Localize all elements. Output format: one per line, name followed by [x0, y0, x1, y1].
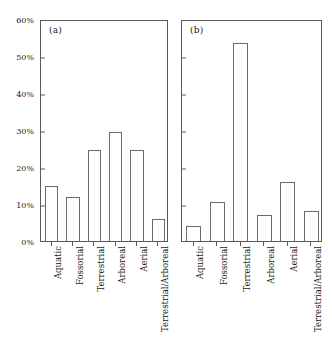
y-tick-mark	[41, 132, 45, 133]
y-tick-mark	[182, 206, 186, 207]
y-tick-mark	[182, 95, 186, 96]
figure-canvas: 0%10%20%30%40%50%60% (a) (b) AquaticFoss…	[0, 0, 332, 351]
panel-a: (a)	[40, 20, 168, 242]
bar	[280, 182, 295, 241]
y-tick-label: 10%	[16, 201, 34, 210]
x-tick-label: Fossorial	[76, 246, 85, 285]
bar	[257, 215, 272, 241]
y-tick-label: 20%	[16, 164, 34, 173]
y-tick-label: 60%	[16, 16, 34, 25]
y-tick-mark	[182, 169, 186, 170]
y-tick-mark	[41, 58, 45, 59]
y-tick-mark	[182, 58, 186, 59]
bar	[233, 43, 248, 241]
bar	[152, 219, 165, 241]
x-tick-label: Aquatic	[196, 246, 205, 279]
x-tick-label: Arboreal	[267, 246, 276, 284]
y-tick-mark	[41, 169, 45, 170]
x-tick-label: Terrestrial/Arboreal	[161, 246, 170, 332]
bar	[109, 132, 122, 241]
x-tick-label: Arboreal	[118, 246, 127, 284]
x-tick-label: Terrestrial/Arboreal	[314, 246, 323, 332]
bar	[88, 150, 101, 241]
panel-a-bars	[41, 21, 167, 241]
x-tick-label: Aerial	[290, 246, 299, 272]
panel-b-bars	[182, 21, 321, 241]
bar	[210, 202, 225, 241]
bar	[66, 197, 79, 241]
x-tick-label: Terrestrial	[97, 246, 106, 292]
x-tick-label: Aquatic	[54, 246, 63, 279]
bar	[45, 186, 58, 242]
y-tick-mark	[182, 132, 186, 133]
bar	[304, 211, 319, 241]
y-tick-label: 50%	[16, 53, 34, 62]
y-tick-mark	[41, 206, 45, 207]
y-tick-label: 30%	[16, 127, 34, 136]
x-axis-labels: AquaticFossorialTerrestrialArborealAeria…	[0, 246, 332, 351]
y-tick-label: 40%	[16, 90, 34, 99]
bar	[130, 150, 143, 241]
x-tick-label: Fossorial	[220, 246, 229, 285]
bar	[186, 226, 201, 241]
y-tick-mark	[41, 95, 45, 96]
panel-b: (b)	[181, 20, 322, 242]
y-axis: 0%10%20%30%40%50%60%	[0, 20, 38, 242]
x-tick-label: Terrestrial	[243, 246, 252, 292]
x-tick-label: Aerial	[140, 246, 149, 272]
